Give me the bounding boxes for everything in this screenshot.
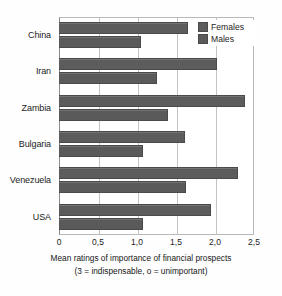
xtick-label: 0,5: [92, 237, 104, 247]
axis-caption: Mean ratings of importance of financial …: [0, 252, 282, 277]
bars-layer: [59, 17, 254, 235]
xtick-label: 2,0: [209, 237, 221, 247]
bar-group-venezuela: [59, 162, 254, 198]
legend-item-females: Females: [198, 21, 254, 33]
bar-group-zambia: [59, 90, 254, 126]
category-label-bulgaria: Bulgaria: [19, 126, 51, 162]
bar-iran-males: [59, 72, 157, 84]
chart-legend: Females Males: [196, 20, 256, 46]
value-axis-tick-labels: 00,51,01,52,02,5: [59, 237, 254, 249]
category-label-iran: Iran: [36, 53, 51, 89]
xtick-label: 1,5: [170, 237, 182, 247]
xtick-label: 0: [57, 237, 62, 247]
legend-item-males: Males: [198, 33, 254, 45]
legend-label-females: Females: [211, 22, 244, 32]
category-label-venezuela: Venezuela: [10, 162, 51, 198]
category-label-zambia: Zambia: [22, 90, 51, 126]
xtick-label: 1,0: [131, 237, 143, 247]
bar-usa-males: [59, 218, 143, 230]
bar-group-iran: [59, 53, 254, 89]
bar-group-usa: [59, 199, 254, 235]
legend-swatch-males-icon: [198, 34, 208, 44]
category-label-china: China: [28, 17, 51, 53]
bar-china-males: [59, 36, 141, 48]
bar-venezuela-males: [59, 181, 186, 193]
bar-venezuela-females: [59, 167, 238, 179]
bar-iran-females: [59, 58, 217, 70]
bar-china-females: [59, 22, 188, 34]
legend-label-males: Males: [211, 34, 234, 44]
bar-bulgaria-males: [59, 145, 143, 157]
category-axis-labels: ChinaIranZambiaBulgariaVenezuelaUSA: [0, 17, 55, 235]
bar-group-bulgaria: [59, 126, 254, 162]
bar-usa-females: [59, 204, 211, 216]
caption-line-2: (3 = indispensable, o = unimportant): [0, 265, 282, 278]
bar-zambia-males: [59, 109, 168, 121]
category-label-usa: USA: [33, 199, 51, 235]
xtick-label: 2,5: [248, 237, 260, 247]
bar-chart-figure: ChinaIranZambiaBulgariaVenezuelaUSA 00,5…: [0, 0, 282, 296]
bar-bulgaria-females: [59, 131, 185, 143]
bar-zambia-females: [59, 95, 245, 107]
legend-swatch-females-icon: [198, 22, 208, 32]
caption-line-1: Mean ratings of importance of financial …: [0, 252, 282, 265]
